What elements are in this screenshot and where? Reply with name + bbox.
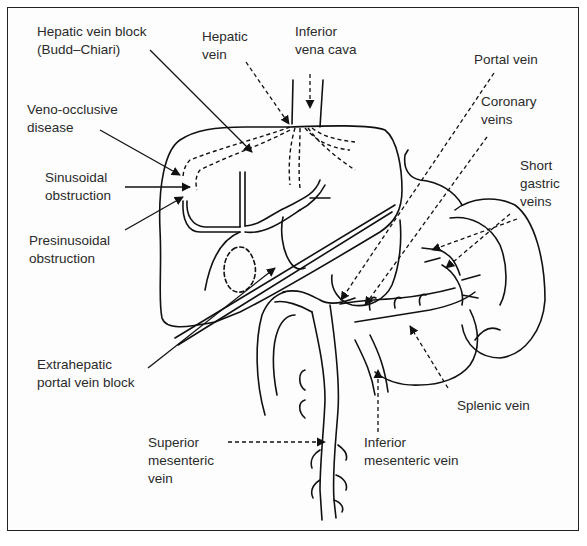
label-coronary-veins: Coronaryveins: [481, 93, 537, 129]
label-veno-occlusive: Veno-occlusivedisease: [27, 101, 118, 137]
short-gastric-branches: [422, 248, 480, 305]
leader-short-gastric-1: [432, 219, 517, 250]
leader-coronary-veins: [365, 137, 487, 305]
vessel-left-inner: [273, 315, 295, 395]
splenic-tributaries: [369, 294, 426, 310]
leader-splenic-vein: [410, 326, 448, 388]
anatomy-drawing: [0, 0, 587, 546]
label-hepatic-vein-block: Hepatic vein block(Budd–Chiari): [37, 23, 147, 59]
stomach-outline: [375, 150, 478, 385]
label-sinusoidal: Sinusoidalobstruction: [45, 169, 111, 205]
portal-branch-main: [205, 180, 320, 290]
hepatic-vein-network: [183, 127, 355, 190]
portal-branch-vert: [240, 172, 245, 227]
label-splenic-vein: Splenic vein: [457, 397, 530, 415]
spleen-inner-curve: [450, 217, 506, 340]
vessel-left-outer: [257, 292, 285, 415]
gallbladder: [224, 247, 255, 292]
splenic-vein-upper: [340, 288, 455, 304]
smv-branches: [311, 445, 346, 512]
ivc-right-wall: [320, 80, 323, 127]
imv-vessel: [355, 335, 388, 395]
smv-right-wall: [330, 305, 338, 518]
label-extrahepatic: Extrahepaticportal vein block: [37, 356, 135, 392]
leader-extrahepatic: [148, 268, 275, 368]
duodenal-loop: [300, 370, 305, 418]
coronary-vein-curve: [332, 220, 401, 306]
leader-portal-vein: [341, 73, 494, 300]
ivc-left-wall: [292, 80, 293, 124]
leader-hepatic-vein: [246, 62, 289, 124]
label-inferior-mesenteric: Inferiormesenteric vein: [364, 434, 459, 470]
label-portal-vein: Portal vein: [474, 51, 538, 69]
smv-left-wall: [312, 312, 325, 520]
label-inferior-vena-cava: Inferiorvena cava: [295, 23, 357, 59]
label-short-gastric: Shortgastricveins: [520, 157, 560, 211]
label-superior-mesenteric: Superiormesentericvein: [148, 434, 214, 488]
label-hepatic-vein: Hepaticvein: [202, 28, 248, 64]
leader-hepatic-vein-block: [150, 50, 252, 152]
leader-presinusoidal: [125, 197, 183, 230]
liver-outline: [160, 126, 402, 327]
portal-branch-left-2: [187, 201, 240, 227]
label-presinusoidal: Presinusoidalobstruction: [29, 232, 110, 268]
